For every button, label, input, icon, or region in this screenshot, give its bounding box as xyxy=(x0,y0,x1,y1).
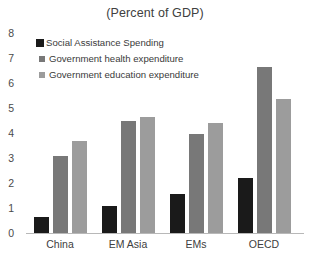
chart-title: (Percent of GDP) xyxy=(0,6,310,20)
legend-label: Government health expenditure xyxy=(49,54,183,64)
y-tick-label: 6 xyxy=(0,78,14,89)
bar xyxy=(189,134,204,233)
x-axis-label: OECD xyxy=(229,238,299,250)
chart-legend: Social Assistance SpendingGovernment hea… xyxy=(36,38,199,86)
bar xyxy=(102,206,117,234)
legend-item: Social Assistance Spending xyxy=(36,38,199,48)
legend-item: Government health expenditure xyxy=(36,54,199,64)
bar xyxy=(72,141,87,234)
y-tick-label: 8 xyxy=(0,28,14,39)
legend-label: Government education expenditure xyxy=(49,70,199,80)
x-axis-label: China xyxy=(25,238,95,250)
bar xyxy=(53,156,68,234)
y-tick-label: 2 xyxy=(0,178,14,189)
bar xyxy=(238,178,253,233)
y-tick-label: 1 xyxy=(0,203,14,214)
bar xyxy=(276,99,291,233)
y-tick-label: 4 xyxy=(0,128,14,139)
legend-item: Government education expenditure xyxy=(36,70,199,80)
bar xyxy=(257,67,272,233)
legend-label: Social Assistance Spending xyxy=(46,38,164,48)
bar xyxy=(140,117,155,233)
bar-group xyxy=(238,33,293,233)
x-axis-label: EM Asia xyxy=(93,238,163,250)
legend-swatch-icon xyxy=(36,39,44,47)
bar xyxy=(34,217,49,233)
legend-swatch-icon xyxy=(39,72,45,78)
y-tick-label: 7 xyxy=(0,53,14,64)
x-axis-label: EMs xyxy=(161,238,231,250)
bar xyxy=(121,121,136,234)
axis-baseline xyxy=(26,233,304,234)
bar xyxy=(208,123,223,233)
bar xyxy=(170,194,185,233)
chart-container: (Percent of GDP) 012345678 ChinaEM AsiaE… xyxy=(0,0,310,264)
y-tick-label: 5 xyxy=(0,103,14,114)
y-tick-label: 3 xyxy=(0,153,14,164)
y-tick-label: 0 xyxy=(0,228,14,239)
legend-swatch-icon xyxy=(39,56,45,62)
